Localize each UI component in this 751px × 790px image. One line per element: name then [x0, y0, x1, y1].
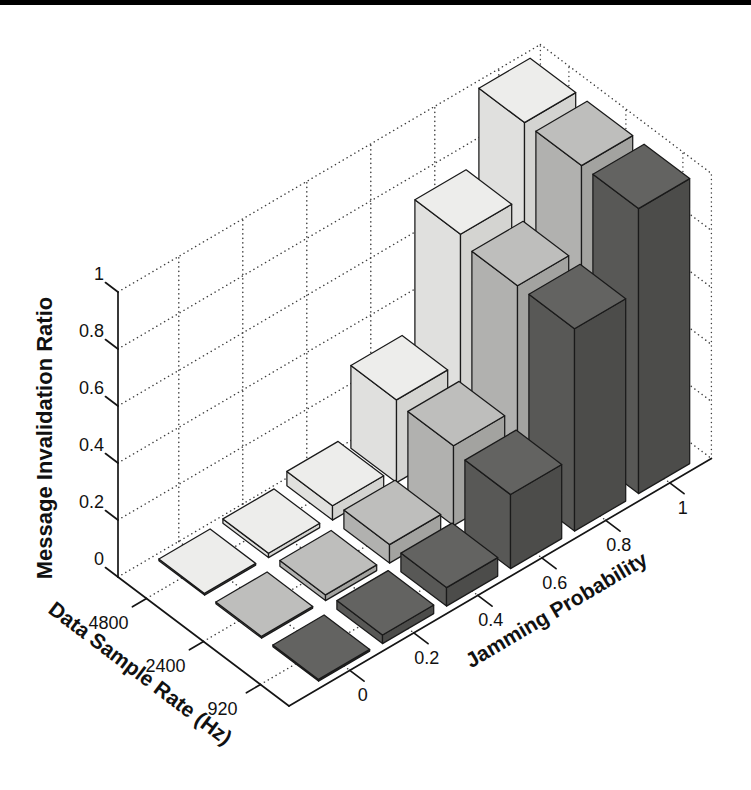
bar3d-figure: 00.20.40.60.814800240092000.20.40.60.81 …: [0, 0, 751, 790]
z-tick-label: 0.8: [79, 321, 104, 341]
x-tick-label: 0.8: [606, 535, 631, 555]
row-axis-title: Data Sample Rate (Hz): [45, 597, 237, 750]
bar-2400hz-jp0-top-face: [216, 572, 313, 636]
z-tick-label: 0.4: [79, 435, 104, 455]
x-tick-label: 0: [358, 685, 368, 705]
x-tick-label: 0.4: [478, 610, 503, 630]
bar-920hz-jp0-top-face: [273, 615, 370, 679]
z-tick: [105, 454, 118, 463]
z-tick: [105, 283, 118, 292]
z-tick-label: 1: [94, 264, 104, 284]
bar-920hz-jp1-front-face: [639, 179, 690, 494]
x-tick-label: 0.2: [414, 648, 439, 668]
x-tick: [414, 633, 428, 644]
x-tick: [478, 595, 492, 606]
x-tick: [350, 670, 364, 681]
x-tick: [606, 520, 620, 531]
z-axis-title: Message Invalidation Ratio: [32, 297, 57, 579]
z-tick: [105, 511, 118, 520]
z-tick-label: 0.2: [79, 492, 104, 512]
z-tick: [105, 340, 118, 349]
x-tick: [670, 483, 684, 494]
z-tick-label: 0: [94, 549, 104, 569]
scan-edge-strip: [0, 0, 751, 5]
x-tick-label: 1: [678, 498, 688, 518]
bar-920hz-jp0.8-front-face: [575, 299, 626, 531]
row-tick: [189, 642, 203, 650]
x-tick: [542, 558, 556, 569]
x-tick-label: 0.6: [542, 573, 567, 593]
z-tick: [105, 397, 118, 406]
row-tick: [132, 599, 146, 607]
row-tick: [246, 685, 260, 693]
bar3d-chart-canvas: 00.20.40.60.814800240092000.20.40.60.81 …: [0, 0, 751, 790]
z-tick: [105, 568, 118, 577]
bar-4800hz-jp0-top-face: [159, 529, 256, 593]
z-tick-label: 0.6: [79, 378, 104, 398]
